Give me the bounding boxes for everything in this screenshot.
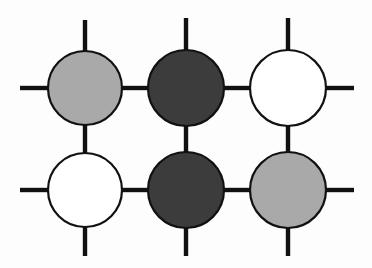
node-white[interactable] <box>48 153 122 227</box>
node-light-gray[interactable] <box>48 51 122 125</box>
lattice-canvas <box>0 0 372 268</box>
node-dark-gray[interactable] <box>148 152 224 228</box>
node-dark-gray[interactable] <box>148 50 224 126</box>
node-light-gray[interactable] <box>250 152 326 228</box>
node-white[interactable] <box>250 50 326 126</box>
lattice-figure <box>0 0 372 268</box>
